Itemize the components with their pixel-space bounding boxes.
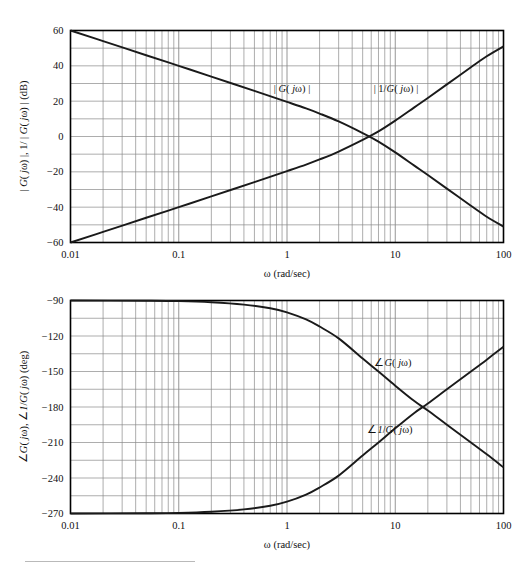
x-tick-label: 100 <box>496 520 512 531</box>
label-phase-G: ∠G( jω) <box>374 357 412 369</box>
magnitude-grid <box>71 31 504 243</box>
y-tick-label: −120 <box>42 331 64 342</box>
y-tick-label: 20 <box>53 96 64 107</box>
magnitude-plot-svg: −60−40−200204060 0.010.1110100 | G( jω) … <box>0 0 532 290</box>
magnitude-y-axis-title: | G( jω) |, 1/ | G( jω) | (dB) <box>18 80 30 191</box>
y-tick-label: 40 <box>53 60 64 71</box>
label-phase-inv-G: ∠1/G( jω) <box>367 424 413 436</box>
phase-x-tick-labels: 0.010.1110100 <box>61 520 511 531</box>
magnitude-x-tick-labels: 0.010.1110100 <box>61 249 511 260</box>
label-mag-G: | G( jω) | <box>274 83 311 95</box>
y-tick-label: −210 <box>42 437 64 448</box>
y-tick-label: −240 <box>42 473 64 484</box>
magnitude-x-axis-title: ω (rad/sec) <box>264 268 311 280</box>
x-tick-label: 0.01 <box>61 520 79 531</box>
label-mag-inv-G: | 1/G( jω) | <box>374 83 419 95</box>
phase-plot-svg: −270−240−210−180−150−120−90 0.010.111010… <box>0 290 532 573</box>
x-tick-label: 100 <box>496 249 512 260</box>
y-tick-label: 0 <box>58 131 63 142</box>
x-tick-label: 0.1 <box>172 249 185 260</box>
y-tick-label: −40 <box>47 202 63 213</box>
magnitude-y-tick-labels: −60−40−200204060 <box>47 25 63 248</box>
x-tick-label: 0.1 <box>172 520 185 531</box>
y-tick-label: −270 <box>42 508 64 519</box>
y-tick-label: −150 <box>42 366 64 377</box>
x-tick-label: 0.01 <box>61 249 79 260</box>
y-tick-label: 60 <box>53 25 64 36</box>
y-tick-label: −90 <box>47 295 63 306</box>
bode-figure: −60−40−200204060 0.010.1110100 | G( jω) … <box>0 0 532 573</box>
phase-plot-panel: −270−240−210−180−150−120−90 0.010.111010… <box>0 290 532 573</box>
y-tick-label: −60 <box>47 237 63 248</box>
phase-x-axis-title: ω (rad/sec) <box>264 539 311 551</box>
y-tick-label: −180 <box>42 402 64 413</box>
magnitude-plot-panel: −60−40−200204060 0.010.1110100 | G( jω) … <box>0 0 532 290</box>
phase-grid <box>71 301 504 514</box>
x-tick-label: 10 <box>390 520 401 531</box>
x-tick-label: 10 <box>390 249 401 260</box>
x-tick-label: 1 <box>284 520 289 531</box>
footer-divider <box>25 561 195 562</box>
y-tick-label: −20 <box>47 166 63 177</box>
phase-y-axis-title: ∠G( jω), ∠1/G( jω) (deg) <box>18 350 30 463</box>
phase-y-tick-labels: −270−240−210−180−150−120−90 <box>42 295 64 519</box>
x-tick-label: 1 <box>284 249 289 260</box>
